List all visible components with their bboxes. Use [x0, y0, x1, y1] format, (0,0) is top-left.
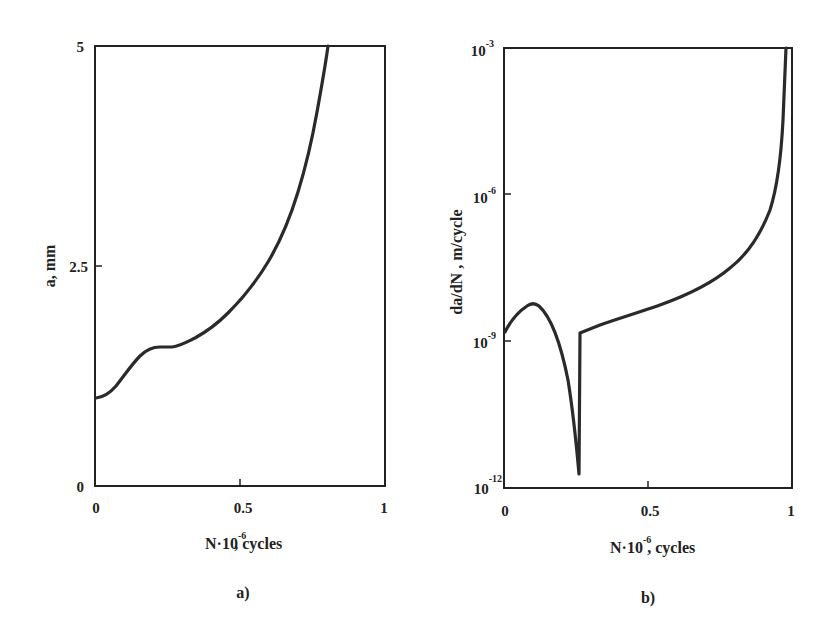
figure: 5 2.5 0 0 0.5 1 a, mm N·10-6, cycles a) … [0, 0, 835, 635]
panel-b-xtick-label-1: 1 [787, 503, 795, 519]
panel-b-ytick-1e-12-base: 10 [474, 481, 489, 497]
panel-b-ytick-1e-6-exp: -6 [488, 185, 496, 196]
panel-b-ytick-1e-6-base: 10 [473, 190, 488, 206]
panel-a-xlabel: N·10-6, cycles [205, 530, 282, 553]
panel-a-xtick-label-0.5: 0.5 [234, 500, 253, 516]
panel-b-caption: b) [641, 589, 655, 607]
panel-b-ytick-label-1e-3: 10-3 [471, 38, 494, 59]
panel-b-ytick-1e-9-exp: -9 [488, 330, 496, 341]
panel-b-plot-frame [504, 48, 792, 488]
panel-b-ytick-label-1e-6: 10-6 [473, 185, 496, 206]
panel-a-xlabel-main: N·10 [205, 535, 238, 552]
panel-a-ytick-label-2.5: 2.5 [69, 259, 88, 275]
panel-b-ylabel: da/dN , m/cycle [448, 209, 466, 314]
panel-b-xtick-label-0: 0 [501, 503, 509, 519]
panel-a-ylabel: a, mm [41, 244, 58, 287]
panel-b-curve [505, 48, 786, 474]
panel-a-plot-frame [95, 46, 385, 486]
panel-b-ytick-1e-3-base: 10 [471, 43, 486, 59]
panel-b-ytick-1e-9-base: 10 [473, 335, 488, 351]
panel-a-ytick-label-5: 5 [77, 39, 85, 55]
panel-b: 10-3 10-6 10-9 10-12 0 0.5 1 da/dN , m/c… [448, 38, 795, 607]
panel-b-ytick-1e-12-exp: -12 [489, 473, 502, 484]
panel-a-xtick-label-0: 0 [92, 500, 100, 516]
panel-a-ytick-label-0: 0 [77, 479, 85, 495]
panel-b-xtick-label-0.5: 0.5 [641, 503, 660, 519]
panel-b-ytick-1e-3-exp: -3 [486, 38, 494, 49]
panel-b-ytick-label-1e-9: 10-9 [473, 330, 496, 351]
panel-a-xtick-label-1: 1 [380, 500, 388, 516]
panel-a-caption: a) [236, 584, 249, 602]
panel-b-ytick-label-1e-12: 10-12 [474, 473, 502, 497]
panel-a: 5 2.5 0 0 0.5 1 a, mm N·10-6, cycles a) [41, 39, 388, 602]
panel-b-xlabel-tail: , cycles [647, 539, 695, 557]
panel-a-curve [96, 46, 328, 398]
panel-a-xlabel-tail: , cycles [234, 535, 282, 553]
panel-b-xlabel-main: N·10 [610, 539, 643, 556]
panel-b-xlabel: N·10-6, cycles [610, 534, 695, 557]
